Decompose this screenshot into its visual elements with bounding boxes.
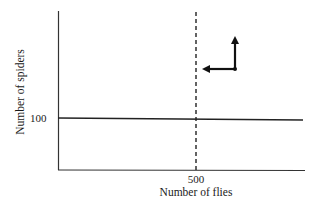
y-tick-label: 100 — [30, 112, 47, 124]
x-axis-label: Number of flies — [160, 186, 233, 198]
spider-isocline — [58, 118, 303, 120]
y-axis-label: Number of spiders — [14, 49, 26, 135]
state-point — [233, 67, 237, 71]
chart-canvas — [0, 0, 318, 205]
x-axis — [58, 170, 305, 171]
x-tick-label: 500 — [188, 173, 205, 185]
